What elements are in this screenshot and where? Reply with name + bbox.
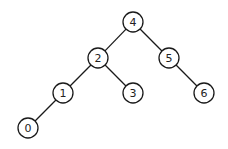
tree-nodes: 4251360 bbox=[18, 12, 214, 138]
edge-2-1 bbox=[70, 65, 91, 86]
edge-1-0 bbox=[35, 100, 56, 121]
tree-node-1: 1 bbox=[53, 83, 73, 103]
node-label: 2 bbox=[95, 52, 102, 65]
node-label: 5 bbox=[166, 52, 173, 65]
edge-5-6 bbox=[176, 65, 197, 86]
tree-node-2: 2 bbox=[88, 48, 108, 68]
node-label: 0 bbox=[25, 122, 32, 135]
node-label: 3 bbox=[130, 87, 137, 100]
tree-edges bbox=[35, 29, 197, 121]
node-label: 6 bbox=[201, 87, 208, 100]
binary-tree-diagram: 4251360 bbox=[0, 0, 228, 149]
tree-node-5: 5 bbox=[159, 48, 179, 68]
tree-node-0: 0 bbox=[18, 118, 38, 138]
tree-node-6: 6 bbox=[194, 83, 214, 103]
tree-node-4: 4 bbox=[123, 12, 143, 32]
tree-node-3: 3 bbox=[123, 83, 143, 103]
edge-2-3 bbox=[105, 65, 126, 86]
node-label: 4 bbox=[130, 16, 137, 29]
node-label: 1 bbox=[60, 87, 67, 100]
edge-4-2 bbox=[105, 29, 126, 51]
edge-4-5 bbox=[140, 29, 162, 51]
